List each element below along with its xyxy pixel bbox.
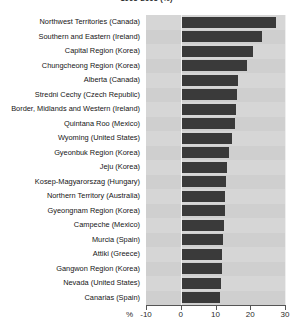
bar-row — [146, 131, 285, 146]
bar — [181, 249, 223, 260]
category-label: Northwest Territories (Canada) — [40, 18, 141, 25]
bar-row — [146, 160, 285, 175]
horizontal-bar-chart: 1995-2005 (%) -100102030 % Northwest Ter… — [0, 0, 293, 328]
x-axis-tick-label: 0 — [179, 310, 183, 319]
bar-row — [146, 44, 285, 59]
category-label: Capital Region (Korea) — [65, 47, 140, 54]
category-label: Alberta (Canada) — [84, 76, 140, 83]
category-labels: Northwest Territories (Canada)Southern a… — [0, 15, 143, 305]
category-label: Gyeonbuk Region (Korea) — [54, 149, 140, 156]
bar-row — [146, 189, 285, 204]
bar — [181, 205, 225, 216]
bar — [181, 31, 263, 42]
bar-row — [146, 204, 285, 219]
bar-row — [146, 59, 285, 74]
bar — [181, 133, 232, 144]
x-axis-tick-label: 10 — [211, 310, 220, 319]
category-label: Southern and Eastern (Ireland) — [39, 33, 140, 40]
category-label: Northern Territory (Australia) — [47, 192, 140, 199]
category-label: Kosep-Magyarorszag (Hungary) — [35, 178, 140, 185]
bar-row — [146, 276, 285, 291]
bar-rows — [146, 15, 285, 305]
bar — [181, 162, 227, 173]
bar-row — [146, 262, 285, 277]
bar-row — [146, 218, 285, 233]
bar — [181, 191, 225, 202]
category-label: Chungcheong Region (Korea) — [42, 62, 140, 69]
category-label: Campeche (Mexico) — [74, 221, 140, 228]
category-label: Wyoming (United States) — [58, 134, 140, 141]
category-label: Attiki (Greece) — [93, 250, 140, 257]
gridline — [285, 15, 286, 305]
bar — [181, 89, 238, 100]
x-axis-tick-label: 20 — [246, 310, 255, 319]
category-label: Gyeongnam Region (Korea) — [48, 207, 140, 214]
category-label: Quintana Roo (Mexico) — [64, 120, 140, 127]
x-axis-tick-label: -10 — [140, 310, 152, 319]
category-label: Stredni Cechy (Czech Republic) — [35, 91, 140, 98]
bar-row — [146, 30, 285, 45]
bar — [181, 220, 224, 231]
bar-row — [146, 15, 285, 30]
bar — [181, 17, 277, 28]
category-label: Border, Midlands and Western (Ireland) — [11, 105, 140, 112]
zero-line — [181, 15, 182, 305]
bar — [181, 75, 238, 86]
category-label: Jeju (Korea) — [100, 163, 140, 170]
bar-row — [146, 247, 285, 262]
bar — [181, 46, 253, 57]
axis-unit-label: % — [126, 310, 133, 319]
bar — [181, 292, 220, 303]
bar — [181, 263, 222, 274]
bar-row — [146, 175, 285, 190]
chart-title: 1995-2005 (%) — [0, 0, 293, 4]
bar — [181, 104, 236, 115]
bar — [181, 176, 226, 187]
bar — [181, 234, 223, 245]
bar — [181, 147, 230, 158]
bar — [181, 118, 235, 129]
bar-row — [146, 117, 285, 132]
bar-row — [146, 146, 285, 161]
x-axis-tick-label: 30 — [281, 310, 290, 319]
category-label: Nevada (United States) — [63, 279, 140, 286]
bar-row — [146, 73, 285, 88]
plot-area — [146, 15, 285, 305]
bar-row — [146, 291, 285, 306]
bar-row — [146, 233, 285, 248]
bar — [181, 60, 247, 71]
bar — [181, 278, 221, 289]
category-label: Murcia (Spain) — [92, 236, 140, 243]
category-label: Gangwon Region (Korea) — [56, 265, 140, 272]
bar-row — [146, 88, 285, 103]
category-label: Canarias (Spain) — [85, 294, 140, 301]
bar-row — [146, 102, 285, 117]
